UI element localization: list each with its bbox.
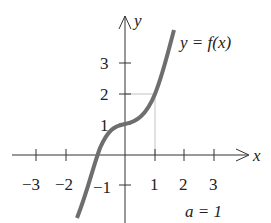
y-axis	[119, 16, 131, 223]
y-tick-label: −1	[93, 178, 111, 197]
x-tick-label: 2	[179, 175, 188, 194]
y-axis-label: y	[132, 11, 142, 30]
parameter-annotation: a = 1	[185, 202, 222, 221]
y-tick-label: 1	[100, 116, 109, 135]
y-tick-label: 3	[100, 54, 109, 73]
x-tick-label: 1	[150, 175, 159, 194]
x-tick-label: −2	[55, 175, 73, 194]
x-axis-label: x	[252, 146, 261, 165]
y-tick-label: 2	[100, 85, 109, 104]
function-label: y = f(x)	[178, 33, 231, 52]
chart-canvas: −3 −2 1 2 3 3 2 1 −1 x y y = f(x) a = 1	[0, 0, 271, 223]
x-tick-label: −3	[22, 175, 40, 194]
x-tick-label: 3	[209, 175, 218, 194]
x-axis	[12, 149, 249, 161]
